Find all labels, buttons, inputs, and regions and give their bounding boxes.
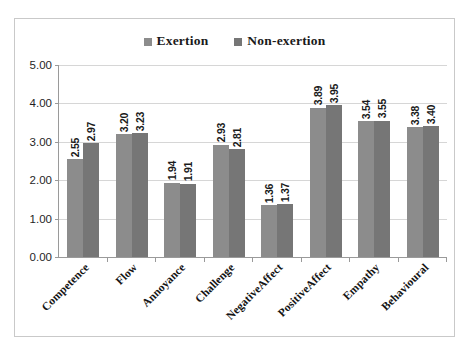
legend-item-non-exertion: Non-exertion <box>234 33 325 49</box>
bar-series-container: 2.552.973.203.231.941.912.932.811.361.37… <box>59 65 447 257</box>
y-axis-tick-mark <box>55 257 59 258</box>
y-axis-tick-label: 1.00 <box>30 213 52 225</box>
bar-non-exertion: 3.40 <box>423 126 439 257</box>
bar-non-exertion: 1.91 <box>180 184 196 257</box>
bar-value-label: 3.89 <box>313 86 324 105</box>
bar-non-exertion: 3.23 <box>132 133 148 257</box>
chart-frame: Exertion Non-exertion 0.001.002.003.004.… <box>14 18 455 337</box>
x-axis-category-label: Flow <box>113 261 139 287</box>
bar-non-exertion: 3.95 <box>326 105 342 257</box>
x-axis-category-label: Annoyance <box>140 261 188 309</box>
x-axis-tick-mark <box>446 257 447 262</box>
legend-swatch-non-exertion <box>234 38 242 46</box>
bar-non-exertion: 2.81 <box>229 149 245 257</box>
bar-exertion: 3.89 <box>310 108 326 257</box>
bar-value-label: 1.36 <box>264 184 275 203</box>
bar-exertion: 1.36 <box>261 205 277 257</box>
bar-value-label: 3.20 <box>119 113 130 132</box>
bar-group: 3.383.40 <box>399 65 448 257</box>
plot-area: 0.001.002.003.004.005.00 2.552.973.203.2… <box>58 65 447 258</box>
bar-value-label: 3.23 <box>135 112 146 131</box>
bar-value-label: 1.94 <box>167 161 178 180</box>
legend-label-non-exertion: Non-exertion <box>247 33 325 49</box>
legend-swatch-exertion <box>144 38 152 46</box>
chart-legend: Exertion Non-exertion <box>15 33 454 49</box>
bar-value-label: 2.55 <box>70 138 81 157</box>
legend-item-exertion: Exertion <box>144 33 209 49</box>
bar-value-label: 3.55 <box>377 99 388 118</box>
x-axis-category-label: Empathy <box>341 261 382 302</box>
bar-value-label: 3.54 <box>361 100 372 119</box>
bar-exertion: 1.94 <box>164 183 180 257</box>
bar-group: 1.361.37 <box>253 65 302 257</box>
bar-group: 2.552.97 <box>59 65 108 257</box>
bar-value-label: 1.91 <box>183 162 194 181</box>
bar-group: 1.941.91 <box>156 65 205 257</box>
bar-value-label: 3.95 <box>329 84 340 103</box>
bar-value-label: 2.97 <box>86 122 97 141</box>
bar-non-exertion: 2.97 <box>83 143 99 257</box>
bar-exertion: 3.20 <box>116 134 132 257</box>
x-axis-category-labels: CompetenceFlowAnnoyanceChallengeNegative… <box>58 259 446 334</box>
y-axis-tick-label: 0.00 <box>30 251 52 263</box>
bar-value-label: 3.40 <box>426 105 437 124</box>
bar-non-exertion: 3.55 <box>374 121 390 257</box>
bar-group: 2.932.81 <box>205 65 254 257</box>
bar-exertion: 2.55 <box>67 159 83 257</box>
bar-group: 3.203.23 <box>108 65 157 257</box>
bar-exertion: 2.93 <box>213 145 229 258</box>
bar-non-exertion: 1.37 <box>277 204 293 257</box>
bar-group: 3.543.55 <box>350 65 399 257</box>
y-axis-tick-label: 3.00 <box>30 136 52 148</box>
legend-label-exertion: Exertion <box>157 33 209 49</box>
y-axis-tick-label: 5.00 <box>30 59 52 71</box>
bar-value-label: 1.37 <box>280 183 291 202</box>
bar-value-label: 3.38 <box>410 106 421 125</box>
bar-exertion: 3.38 <box>407 127 423 257</box>
x-axis-category-label: Competence <box>39 261 91 313</box>
x-axis-category-label: Challenge <box>192 261 236 305</box>
bar-value-label: 2.93 <box>216 123 227 142</box>
bar-value-label: 2.81 <box>232 128 243 147</box>
y-axis-tick-label: 2.00 <box>30 174 52 186</box>
bar-group: 3.893.95 <box>302 65 351 257</box>
y-axis-tick-label: 4.00 <box>30 97 52 109</box>
x-axis-category-label: Behavioural <box>378 261 430 313</box>
bar-exertion: 3.54 <box>358 121 374 257</box>
